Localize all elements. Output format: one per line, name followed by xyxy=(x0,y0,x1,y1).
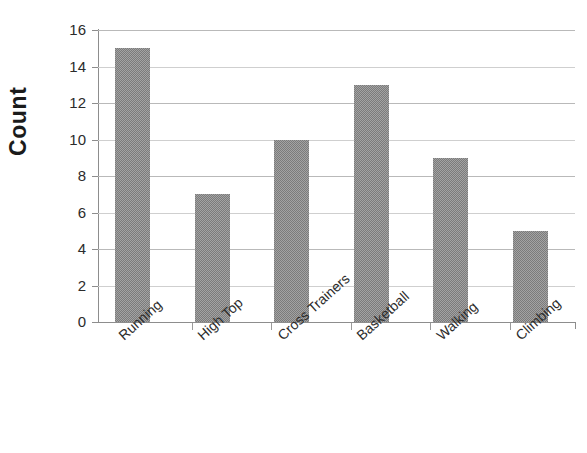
bar xyxy=(354,85,389,322)
y-axis-tick-label: 14 xyxy=(44,59,86,74)
x-axis-tick xyxy=(430,323,431,330)
x-axis-tick xyxy=(351,323,352,330)
y-axis-title: Count xyxy=(5,6,31,156)
bar xyxy=(274,140,309,323)
y-axis-tick-label: 16 xyxy=(44,22,86,37)
y-axis-tick-label: 12 xyxy=(44,95,86,110)
y-axis-tick-label: 0 xyxy=(44,314,86,329)
x-axis-end-tick xyxy=(575,322,576,329)
y-axis-tick-label: 6 xyxy=(44,205,86,220)
chart-figure: Count 1614121086420 RunningHigh TopCross… xyxy=(0,0,587,453)
y-axis-tick-label: 8 xyxy=(44,168,86,183)
x-axis-tick xyxy=(192,323,193,330)
gridline xyxy=(98,30,575,31)
gridline xyxy=(98,176,575,177)
gridline xyxy=(98,249,575,250)
x-axis-tick xyxy=(510,323,511,330)
y-axis-tick-label: 4 xyxy=(44,241,86,256)
bar xyxy=(115,48,150,322)
y-axis-tick-label: 10 xyxy=(44,132,86,147)
gridline xyxy=(98,103,575,104)
chart-title xyxy=(0,0,587,3)
bar xyxy=(433,158,468,322)
gridline xyxy=(98,67,575,68)
x-axis-line xyxy=(98,322,576,323)
gridline xyxy=(98,140,575,141)
y-axis-tick-label: 2 xyxy=(44,278,86,293)
x-axis-tick xyxy=(271,323,272,330)
gridline xyxy=(98,213,575,214)
